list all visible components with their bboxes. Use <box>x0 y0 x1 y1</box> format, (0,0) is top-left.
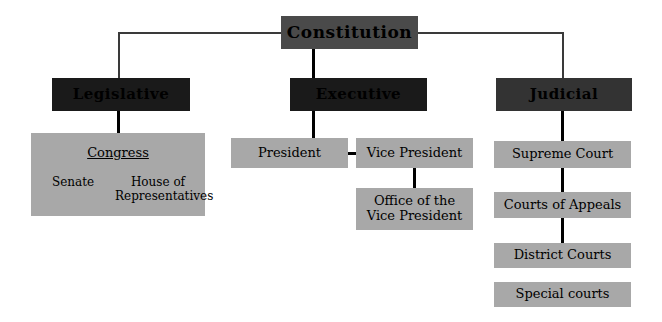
ovp-line1: Office of the <box>374 193 455 208</box>
node-office-of-the-vice-president[interactable]: Office of the Vice President <box>356 188 473 230</box>
connector-root-to-legislative-horizontal <box>118 32 268 34</box>
connector-president-to-vice-president <box>348 152 356 155</box>
connector-root-to-executive <box>312 49 315 79</box>
node-vice-president[interactable]: Vice President <box>356 138 473 168</box>
congress-house-line2: Representatives <box>115 189 213 203</box>
panel-congress[interactable]: Congress Senate House of Representatives <box>31 133 205 216</box>
node-executive[interactable]: Executive <box>290 78 427 111</box>
connector-vice-president-to-ovp <box>413 168 416 188</box>
connector-root-to-judicial-vertical <box>562 32 564 79</box>
connector-executive-to-president <box>312 110 315 139</box>
ovp-line2: Vice President <box>367 208 463 223</box>
connector-supreme-court-to-courts-of-appeals <box>561 168 564 192</box>
node-courts-of-appeals[interactable]: Courts of Appeals <box>494 192 631 218</box>
connector-root-left-stub <box>266 32 282 34</box>
node-president[interactable]: President <box>231 138 348 168</box>
connector-root-to-legislative-vertical <box>118 32 120 79</box>
node-district-courts[interactable]: District Courts <box>494 243 631 268</box>
constitution-org-chart: Constitution Legislative Executive Judic… <box>0 0 662 322</box>
connector-judicial-to-supreme-court <box>561 110 564 141</box>
node-supreme-court[interactable]: Supreme Court <box>494 141 631 168</box>
congress-title: Congress <box>31 145 205 160</box>
node-judicial[interactable]: Judicial <box>496 78 632 111</box>
connector-legislative-to-congress <box>117 110 120 134</box>
connector-courts-of-appeals-to-district-courts <box>561 218 564 243</box>
congress-house: House of Representatives <box>115 175 201 204</box>
congress-house-line1: House of <box>131 175 185 189</box>
node-special-courts[interactable]: Special courts <box>494 282 631 307</box>
connector-root-to-judicial-horizontal <box>432 32 564 34</box>
congress-senate: Senate <box>37 175 109 189</box>
node-legislative[interactable]: Legislative <box>52 78 190 111</box>
node-constitution[interactable]: Constitution <box>281 16 418 49</box>
